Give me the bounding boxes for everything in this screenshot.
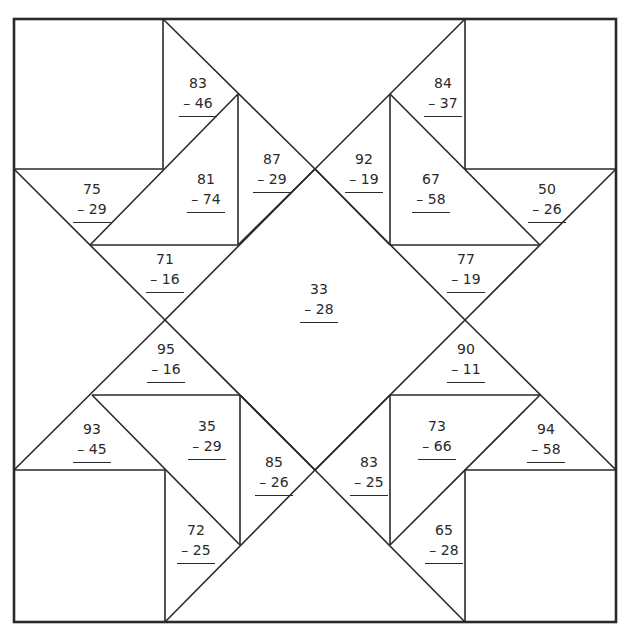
corner-square-bottom-left	[14, 470, 165, 622]
subtrahend: – 37	[424, 93, 461, 117]
subtrahend: – 58	[527, 439, 564, 463]
subtrahend: – 66	[418, 436, 455, 460]
subtraction-problem: 35– 29	[177, 416, 237, 460]
subtraction-problem: 87– 29	[242, 149, 302, 193]
minuend: 83	[168, 73, 228, 93]
subtrahend: – 28	[425, 540, 462, 564]
subtraction-problem: 90– 11	[436, 339, 496, 383]
subtraction-problem: 77– 19	[436, 249, 496, 293]
minuend: 65	[414, 520, 474, 540]
subtrahend: – 25	[350, 472, 387, 496]
minuend: 92	[334, 149, 394, 169]
subtrahend: – 19	[345, 169, 382, 193]
corner-square-bottom-right	[465, 470, 616, 622]
subtrahend: – 29	[188, 436, 225, 460]
minuend: 72	[166, 520, 226, 540]
minuend: 87	[242, 149, 302, 169]
subtrahend: – 16	[146, 269, 183, 293]
minuend: 81	[176, 169, 236, 189]
subtrahend: – 26	[528, 199, 565, 223]
subtrahend: – 29	[253, 169, 290, 193]
minuend: 90	[436, 339, 496, 359]
subtrahend: – 19	[447, 269, 484, 293]
minuend: 50	[517, 179, 577, 199]
subtraction-problem: 95– 16	[136, 339, 196, 383]
subtrahend: – 28	[300, 299, 337, 323]
subtrahend: – 58	[412, 189, 449, 213]
minuend: 75	[62, 179, 122, 199]
subtraction-problem: 92– 19	[334, 149, 394, 193]
subtrahend: – 11	[447, 359, 484, 383]
subtraction-problem: 83– 46	[168, 73, 228, 117]
subtraction-problem: 93– 45	[62, 419, 122, 463]
subtrahend: – 29	[73, 199, 110, 223]
subtraction-problem: 71– 16	[135, 249, 195, 293]
corner-square-top-left	[14, 19, 163, 169]
minuend: 83	[339, 452, 399, 472]
subtraction-problem: 33– 28	[289, 279, 349, 323]
subtrahend: – 16	[147, 359, 184, 383]
minuend: 33	[289, 279, 349, 299]
minuend: 77	[436, 249, 496, 269]
subtrahend: – 46	[179, 93, 216, 117]
minuend: 85	[244, 452, 304, 472]
subtraction-problem: 83– 25	[339, 452, 399, 496]
minuend: 84	[413, 73, 473, 93]
subtrahend: – 25	[177, 540, 214, 564]
minuend: 73	[407, 416, 467, 436]
subtrahend: – 74	[187, 189, 224, 213]
minuend: 93	[62, 419, 122, 439]
minuend: 67	[401, 169, 461, 189]
subtraction-problem: 72– 25	[166, 520, 226, 564]
corner-square-top-right	[465, 19, 616, 169]
minuend: 35	[177, 416, 237, 436]
minuend: 71	[135, 249, 195, 269]
subtraction-problem: 85– 26	[244, 452, 304, 496]
minuend: 95	[136, 339, 196, 359]
subtrahend: – 26	[255, 472, 292, 496]
subtraction-problem: 84– 37	[413, 73, 473, 117]
subtraction-problem: 94– 58	[516, 419, 576, 463]
subtraction-problem: 75– 29	[62, 179, 122, 223]
subtraction-problem: 81– 74	[176, 169, 236, 213]
subtraction-problem: 50– 26	[517, 179, 577, 223]
subtraction-problem: 73– 66	[407, 416, 467, 460]
subtraction-problem: 67– 58	[401, 169, 461, 213]
subtrahend: – 45	[73, 439, 110, 463]
minuend: 94	[516, 419, 576, 439]
subtraction-problem: 65– 28	[414, 520, 474, 564]
